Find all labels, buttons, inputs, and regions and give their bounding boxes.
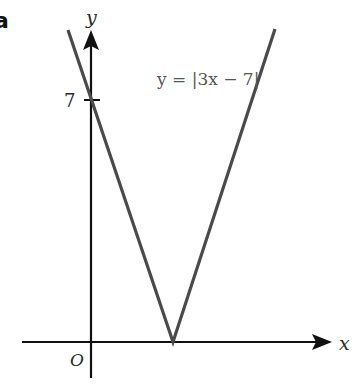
origin-label: O	[70, 350, 84, 370]
part-label: a	[0, 8, 9, 33]
y-axis-label: y	[85, 6, 97, 28]
curve-label: y = |3x − 7|	[156, 69, 259, 89]
x-axis-label: x	[339, 332, 350, 354]
y-intercept-label: 7	[64, 90, 75, 111]
graph-canvas: a y x O 7 y = |3x − 7|	[0, 0, 359, 389]
